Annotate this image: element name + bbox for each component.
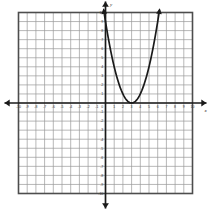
x-tick-label: 9 — [183, 105, 185, 109]
x-tick-label: 1 — [113, 105, 115, 109]
y-tick-label: -2 — [100, 119, 103, 123]
y-tick-label: 9 — [101, 20, 103, 24]
y-tick-label: 8 — [101, 29, 103, 33]
y-tick-label: 5 — [101, 56, 103, 60]
x-tick-label: 3 — [131, 105, 133, 109]
x-tick-label: 4 — [139, 105, 141, 109]
coordinate-plane-figure: -10-9-8-7-6-5-4-3-2-11234567891010987654… — [0, 0, 211, 212]
x-tick-label: -6 — [52, 105, 55, 109]
y-tick-label: 2 — [101, 83, 103, 87]
y-tick-label: 6 — [101, 47, 103, 51]
x-tick-label: -4 — [69, 105, 72, 109]
y-tick-label: 3 — [101, 74, 103, 78]
x-tick-label: -1 — [95, 105, 98, 109]
x-tick-label: -10 — [16, 105, 21, 109]
x-tick-label: -2 — [87, 105, 90, 109]
y-tick-label: -9 — [100, 183, 103, 187]
y-tick-label: -3 — [100, 128, 103, 132]
y-tick-label: -8 — [100, 174, 103, 178]
y-tick-label: -7 — [100, 165, 103, 169]
x-tick-label: -9 — [26, 105, 29, 109]
y-tick-label: 4 — [101, 65, 103, 69]
y-tick-label: 7 — [101, 38, 103, 42]
parabola-graph: -10-9-8-7-6-5-4-3-2-11234567891010987654… — [0, 0, 211, 212]
y-tick-label: -4 — [100, 138, 103, 142]
y-tick-label: -10 — [98, 192, 103, 196]
x-tick-label: 2 — [122, 105, 124, 109]
x-tick-label: -3 — [78, 105, 81, 109]
x-tick-label: 7 — [165, 105, 167, 109]
origin-label: 0 — [101, 105, 103, 109]
y-tick-label: -5 — [100, 147, 103, 151]
x-tick-label: 6 — [157, 105, 159, 109]
x-tick-label: 8 — [174, 105, 176, 109]
x-tick-label: -8 — [34, 105, 37, 109]
y-tick-label: -1 — [100, 110, 103, 114]
x-tick-label: -5 — [60, 105, 63, 109]
x-tick-label: 5 — [148, 105, 150, 109]
y-tick-label: -6 — [100, 156, 103, 160]
x-tick-label: -7 — [43, 105, 46, 109]
y-tick-label: 1 — [101, 92, 103, 96]
x-tick-label: 10 — [191, 105, 195, 109]
